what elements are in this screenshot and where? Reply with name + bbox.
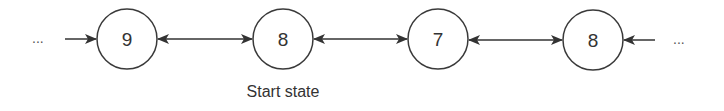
node-label: 7	[433, 29, 444, 50]
state-node-8-right: 8	[563, 10, 623, 70]
state-node-8-start: 8	[253, 9, 313, 69]
left-ellipsis: ...	[32, 30, 44, 46]
node-label: 8	[588, 30, 599, 51]
state-chain-diagram: ... ... 9 8 7 8 Start state	[0, 0, 724, 111]
state-node-7: 7	[408, 9, 468, 69]
start-state-caption: Start state	[247, 83, 320, 100]
node-label: 9	[122, 29, 133, 50]
node-label: 8	[278, 29, 289, 50]
state-node-9: 9	[97, 9, 157, 69]
right-ellipsis: ...	[673, 31, 685, 47]
